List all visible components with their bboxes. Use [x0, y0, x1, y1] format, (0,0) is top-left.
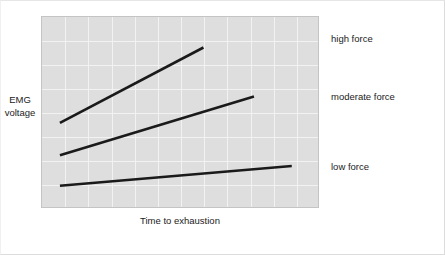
y-axis-title-line2: voltage	[1, 107, 39, 120]
plot-area	[41, 16, 319, 208]
chart-figure: EMG voltage Time to exhaustion high forc…	[0, 0, 445, 255]
y-axis-title-line1: EMG	[1, 94, 39, 107]
series-line-low-force	[60, 166, 292, 186]
series-label-moderate-force: moderate force	[331, 91, 395, 102]
series-label-low-force: low force	[331, 161, 369, 172]
series-layer	[42, 17, 318, 208]
series-line-high-force	[60, 47, 204, 122]
y-axis-title: EMG voltage	[1, 94, 39, 119]
x-axis-title: Time to exhaustion	[41, 215, 319, 226]
series-label-high-force: high force	[331, 33, 373, 44]
series-line-moderate-force	[60, 96, 254, 155]
